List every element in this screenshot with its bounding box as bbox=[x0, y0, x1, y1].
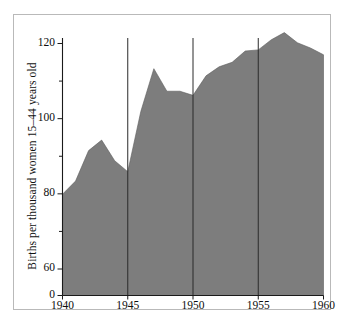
y-tick-label-60: 60 bbox=[20, 261, 55, 273]
x-tick-label-1945: 1945 bbox=[103, 299, 153, 311]
figure-container: Births per thousand women 15–44 years ol… bbox=[0, 0, 344, 328]
y-axis-title: Births per thousand women 15–44 years ol… bbox=[26, 51, 38, 281]
x-tick-label-1955: 1955 bbox=[233, 299, 283, 311]
plot-area: Births per thousand women 15–44 years ol… bbox=[0, 0, 344, 328]
x-tick-label-1950: 1950 bbox=[168, 299, 218, 311]
y-tick-label-100: 100 bbox=[20, 111, 55, 123]
y-axis-ticks bbox=[58, 44, 63, 296]
x-tick-label-1940: 1940 bbox=[38, 299, 88, 311]
x-tick-label-1960: 1960 bbox=[299, 299, 344, 311]
y-tick-label-120: 120 bbox=[20, 36, 55, 48]
y-tick-label-80: 80 bbox=[20, 186, 55, 198]
area-chart-svg bbox=[0, 0, 344, 328]
